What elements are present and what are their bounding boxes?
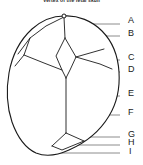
label-e: E — [128, 89, 134, 98]
skull-outline-group — [7, 16, 119, 155]
label-f: F — [128, 108, 134, 117]
skull-outline-path — [7, 16, 119, 155]
label-i: I — [129, 147, 132, 156]
fetal-skull-figure — [0, 0, 143, 165]
label-a: A — [128, 16, 134, 25]
apex-marker-icon — [62, 14, 66, 18]
label-d: D — [128, 65, 135, 74]
label-b: B — [128, 29, 134, 38]
skull-diagram-screenshot: Vertex of the fetal skull ABCDEFGHI — [0, 0, 143, 165]
label-c: C — [128, 53, 135, 62]
